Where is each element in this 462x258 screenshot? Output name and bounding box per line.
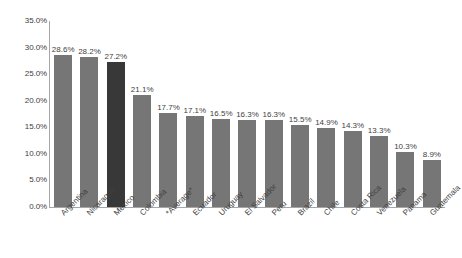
x-axis-label-slot: Mexico xyxy=(103,209,129,258)
bar-group: 16.3% xyxy=(261,21,287,207)
y-axis-tick-label: 20.0% xyxy=(3,97,47,105)
bar-group: 27.2% xyxy=(103,21,129,207)
x-axis-label-slot: Panama xyxy=(392,209,418,258)
bar-group: 10.3% xyxy=(392,21,418,207)
bar xyxy=(317,128,335,207)
y-axis-tick-label: 30.0% xyxy=(3,44,47,52)
bar-group: 16.3% xyxy=(234,21,260,207)
bar-group: 13.3% xyxy=(366,21,392,207)
bar-group: 17.7% xyxy=(155,21,181,207)
bar xyxy=(133,95,151,207)
x-axis-label-slot: Argentina xyxy=(50,209,76,258)
x-axis-label-slot: Guatemala xyxy=(419,209,445,258)
x-axis-category-labels: ArgentinaNicaraguaMexicoColombia*Average… xyxy=(50,209,445,258)
x-axis-label-slot: Costa Rica xyxy=(340,209,366,258)
x-axis-label-slot: *Average* xyxy=(155,209,181,258)
x-axis-label-slot: Nicaragua xyxy=(76,209,102,258)
y-axis-tick-label: 5.0% xyxy=(3,176,47,184)
x-axis-label-slot: Venezuela xyxy=(366,209,392,258)
bar xyxy=(54,55,72,207)
plot-area: 28.6%28.2%27.2%21.1%17.7%17.1%16.5%16.3%… xyxy=(50,21,445,207)
bar-group: 14.3% xyxy=(340,21,366,207)
bar-group: 17.1% xyxy=(182,21,208,207)
bar-group: 28.6% xyxy=(50,21,76,207)
bar-group: 8.9% xyxy=(419,21,445,207)
bar xyxy=(291,125,309,207)
bar xyxy=(344,131,362,207)
bar-group: 15.5% xyxy=(287,21,313,207)
x-axis-label-slot: El Salvador xyxy=(234,209,260,258)
bar-value-label: 13.3% xyxy=(363,126,395,135)
x-axis-label-slot: Peru xyxy=(261,209,287,258)
x-axis-label-slot: Brazil xyxy=(287,209,313,258)
bar-value-label: 8.9% xyxy=(416,150,448,159)
bar-group: 28.2% xyxy=(76,21,102,207)
bar-value-label: 21.1% xyxy=(126,85,158,94)
bar-group: 21.1% xyxy=(129,21,155,207)
bar-group: 14.9% xyxy=(313,21,339,207)
y-axis-tick-label: 10.0% xyxy=(3,150,47,158)
y-axis-tick-label: 25.0% xyxy=(3,70,47,78)
x-axis-label-slot: Chile xyxy=(313,209,339,258)
x-axis-label-slot: Ecuador xyxy=(182,209,208,258)
y-axis-tick-label: 35.0% xyxy=(3,17,47,25)
y-axis-tick-label: 0.0% xyxy=(3,203,47,211)
bar-value-label: 27.2% xyxy=(100,52,132,61)
x-axis-label-slot: Uruguay xyxy=(208,209,234,258)
bar-group: 16.5% xyxy=(208,21,234,207)
y-axis-tick-labels: 35.0%30.0%25.0%20.0%15.0%10.0%5.0%0.0% xyxy=(0,0,47,258)
y-axis-tick-label: 15.0% xyxy=(3,123,47,131)
x-axis-label-slot: Colombia xyxy=(129,209,155,258)
bar xyxy=(80,57,98,207)
